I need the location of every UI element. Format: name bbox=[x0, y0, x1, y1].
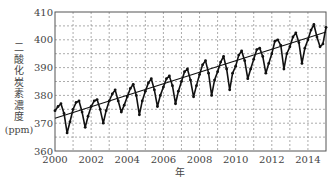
data-point-marker bbox=[273, 40, 276, 43]
data-point-marker bbox=[246, 77, 249, 80]
data-point-marker bbox=[174, 102, 177, 105]
y-axis-title-char: 酸 bbox=[2, 54, 36, 66]
data-point-marker bbox=[234, 65, 237, 68]
data-point-marker bbox=[267, 62, 270, 65]
data-point-marker bbox=[114, 88, 117, 91]
data-point-marker bbox=[87, 115, 90, 118]
data-point-marker bbox=[54, 109, 57, 112]
data-point-marker bbox=[57, 105, 60, 108]
data-point-marker bbox=[312, 23, 315, 26]
data-point-marker bbox=[288, 45, 291, 48]
data-point-marker bbox=[303, 47, 306, 50]
y-axis-ticks: 360370380390400410 bbox=[34, 7, 53, 157]
data-point-marker bbox=[93, 100, 96, 103]
data-point-marker bbox=[171, 84, 174, 87]
data-point-marker bbox=[168, 75, 171, 78]
data-point-marker bbox=[198, 73, 201, 76]
data-point-marker bbox=[81, 111, 84, 114]
x-tick-label: 2008 bbox=[187, 154, 212, 165]
data-point-marker bbox=[189, 79, 192, 82]
co2-line-chart: 360370380390400410 200020022004200620082… bbox=[0, 0, 336, 184]
data-point-marker bbox=[165, 77, 168, 80]
data-point-marker bbox=[207, 72, 210, 75]
x-tick-label: 2012 bbox=[259, 154, 284, 165]
data-point-marker bbox=[90, 105, 93, 108]
data-point-marker bbox=[222, 55, 225, 58]
y-axis-title-char: 素 bbox=[2, 88, 36, 100]
data-point-marker bbox=[135, 94, 138, 97]
data-point-marker bbox=[270, 52, 273, 55]
data-point-marker bbox=[183, 70, 186, 73]
x-tick-label: 2010 bbox=[223, 154, 248, 165]
data-point-marker bbox=[307, 38, 310, 41]
y-axis-title-char: 度 bbox=[2, 111, 36, 123]
data-point-marker bbox=[219, 61, 222, 64]
data-point-marker bbox=[276, 38, 279, 41]
data-point-marker bbox=[72, 108, 75, 111]
data-point-marker bbox=[144, 90, 147, 93]
data-point-marker bbox=[316, 36, 319, 39]
data-point-marker bbox=[159, 94, 162, 97]
x-tick-label: 2004 bbox=[115, 154, 140, 165]
data-point-marker bbox=[60, 102, 63, 105]
y-axis-title-char: 炭 bbox=[2, 77, 36, 89]
data-point-marker bbox=[225, 68, 228, 71]
x-tick-label: 2006 bbox=[151, 154, 176, 165]
y-axis-unit: (ppm) bbox=[2, 124, 36, 136]
data-point-marker bbox=[310, 29, 313, 32]
data-point-marker bbox=[264, 72, 267, 75]
data-point-marker bbox=[243, 59, 246, 62]
data-point-marker bbox=[210, 94, 213, 97]
data-point-marker bbox=[102, 122, 105, 125]
data-point-marker bbox=[180, 80, 183, 83]
data-point-marker bbox=[138, 113, 141, 116]
data-point-marker bbox=[111, 93, 114, 96]
data-point-marker bbox=[237, 54, 240, 57]
y-axis-title: 二 酸 化 炭 素 濃 度 (ppm) bbox=[2, 42, 36, 135]
data-point-marker bbox=[150, 77, 153, 80]
data-point-marker bbox=[325, 26, 328, 29]
y-axis-title-char: 化 bbox=[2, 65, 36, 77]
data-point-marker bbox=[249, 68, 252, 71]
data-point-marker bbox=[186, 68, 189, 71]
data-point-marker bbox=[231, 72, 234, 75]
data-point-marker bbox=[240, 50, 243, 53]
y-tick-label: 400 bbox=[34, 34, 53, 45]
data-point-marker bbox=[285, 52, 288, 55]
data-point-marker bbox=[298, 41, 301, 44]
x-tick-label: 2014 bbox=[295, 154, 320, 165]
data-point-marker bbox=[126, 95, 129, 98]
data-point-marker bbox=[261, 55, 264, 58]
data-point-marker bbox=[216, 70, 219, 73]
data-point-marker bbox=[201, 63, 204, 66]
data-point-marker bbox=[213, 79, 216, 82]
data-point-marker bbox=[117, 100, 120, 103]
data-point-marker bbox=[294, 31, 297, 34]
data-point-marker bbox=[141, 100, 144, 103]
data-point-marker bbox=[105, 109, 108, 112]
data-point-marker bbox=[258, 47, 261, 50]
data-point-marker bbox=[123, 104, 126, 107]
data-point-marker bbox=[147, 81, 150, 84]
data-point-marker bbox=[120, 111, 123, 114]
x-tick-label: 2002 bbox=[78, 154, 103, 165]
y-axis-title-char: 二 bbox=[2, 42, 36, 54]
y-tick-label: 380 bbox=[34, 90, 53, 101]
x-tick-label: 2000 bbox=[42, 154, 67, 165]
data-point-marker bbox=[204, 59, 207, 62]
data-point-marker bbox=[129, 87, 132, 90]
data-point-marker bbox=[63, 112, 66, 115]
data-point-marker bbox=[96, 98, 99, 101]
data-point-marker bbox=[255, 48, 258, 51]
data-point-marker bbox=[319, 45, 322, 48]
data-point-marker bbox=[66, 132, 69, 135]
data-point-marker bbox=[78, 100, 81, 103]
x-axis-title: 年 bbox=[175, 164, 185, 179]
data-point-marker bbox=[279, 44, 282, 47]
data-point-marker bbox=[99, 108, 102, 111]
data-point-marker bbox=[301, 62, 304, 65]
data-point-marker bbox=[75, 101, 78, 104]
data-point-marker bbox=[252, 58, 255, 61]
y-axis-title-char: 濃 bbox=[2, 100, 36, 112]
data-point-marker bbox=[192, 95, 195, 98]
